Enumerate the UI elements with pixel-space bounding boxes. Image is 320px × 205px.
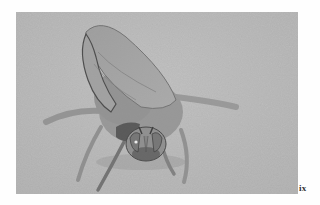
fly-image — [16, 12, 298, 194]
page-number: ix — [299, 183, 306, 193]
insect-photograph — [16, 12, 298, 194]
book-page: ix — [0, 0, 320, 205]
